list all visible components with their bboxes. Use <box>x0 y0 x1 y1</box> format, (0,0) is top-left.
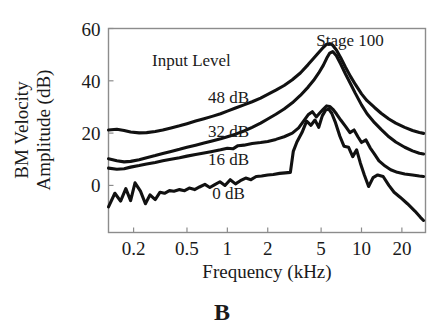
legend-heading: Input Level <box>152 51 231 70</box>
curve-label-16-db: 16 dB <box>208 150 249 169</box>
x-axis-title: Frequency (kHz) <box>202 261 331 283</box>
x-tick-label-5: 5 <box>316 238 326 259</box>
y-axis-tick-labels: 0204060 <box>82 19 101 197</box>
curve-label-48-db: 48 dB <box>208 88 249 107</box>
y-tick-label-40: 40 <box>82 71 101 92</box>
x-tick-label-0.2: 0.2 <box>122 238 146 259</box>
x-tick-label-10: 10 <box>352 238 371 259</box>
curve-label-0-db: 0 dB <box>212 184 245 203</box>
y-tick-label-60: 60 <box>82 19 101 40</box>
x-tick-label-1: 1 <box>223 238 233 259</box>
stage-annotation: Stage 100 <box>316 31 384 50</box>
y-tick-label-20: 20 <box>82 123 101 144</box>
y-axis-title-line2: Amplitude (dB) <box>33 70 55 191</box>
y-axis-tickmarks <box>109 29 114 186</box>
x-axis-tickmarks <box>134 228 402 233</box>
curve-label-32-db: 32 dB <box>208 122 249 141</box>
x-tick-label-20: 20 <box>392 238 411 259</box>
y-tick-label-0: 0 <box>91 175 101 196</box>
curve-16-db <box>109 106 424 177</box>
y-axis-title-line1: BM Velocity <box>11 81 32 179</box>
x-axis-tick-labels: 0.20.51251020 <box>122 238 412 259</box>
data-curves <box>109 44 424 221</box>
figure-panel-b: 0.20.51251020 0204060 48 dB32 dB16 dB0 d… <box>0 0 447 332</box>
panel-letter: B <box>214 299 230 325</box>
x-tick-label-0.5: 0.5 <box>175 238 199 259</box>
x-tick-label-2: 2 <box>263 238 273 259</box>
bm-velocity-frequency-chart: 0.20.51251020 0204060 48 dB32 dB16 dB0 d… <box>0 0 447 332</box>
